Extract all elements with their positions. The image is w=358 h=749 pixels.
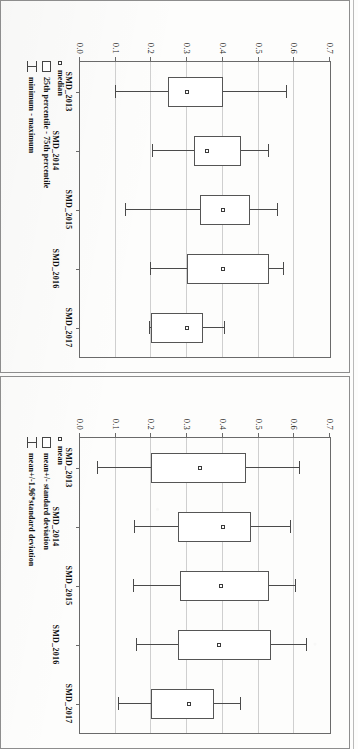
y-axis-tick [115, 57, 116, 62]
y-axis-tick [222, 57, 223, 62]
box-rect [151, 313, 203, 343]
y-axis-tick-label: 0.3 [182, 43, 192, 54]
y-axis-tick [258, 433, 259, 438]
box-rect [151, 689, 214, 719]
rotated-figure: 0.00.10.20.30.40.50.60.7SMD_2013SMD_2014… [0, 0, 350, 749]
whisker-cap-upper [268, 144, 269, 157]
whisker-cap-lower [115, 85, 116, 98]
box-rect [194, 136, 240, 166]
y-axis-tick [186, 433, 187, 438]
box-rect [178, 512, 251, 542]
y-axis-tick [79, 57, 80, 62]
legend-row: mean+/-1.96*standard deviation [27, 437, 37, 566]
center-marker [221, 208, 225, 212]
y-axis-tick [115, 433, 116, 438]
y-axis-tick-label: 0.6 [289, 419, 299, 430]
mean-marker-icon [59, 61, 63, 65]
box-rect [180, 571, 269, 601]
whisker-cap-upper [283, 262, 284, 275]
y-axis-tick-label: 0.4 [218, 43, 228, 54]
box-plot-item [80, 679, 330, 729]
whisker-cap-lower [149, 321, 150, 334]
legend-label: mean [56, 446, 65, 465]
center-marker [185, 326, 189, 330]
whisker-cap-lower [152, 144, 153, 157]
legend-label: mean+/-1.96*standard deviation [28, 453, 37, 566]
box-plot-item [80, 502, 330, 552]
page-edge-line [353, 0, 354, 749]
legend-row: mean+/- standard deviation [42, 437, 51, 550]
legend-label: median [56, 70, 65, 96]
center-marker [198, 466, 202, 470]
center-marker [187, 702, 191, 706]
box-plot-item [80, 561, 330, 611]
whisker-cap-lower [133, 579, 134, 592]
y-axis-tick-label: 0.4 [218, 419, 228, 430]
whisker-cap-lower [134, 520, 135, 533]
box-plot-item [80, 67, 330, 117]
scanned-page: 0.00.10.20.30.40.50.60.7SMD_2013SMD_2014… [0, 0, 358, 749]
y-axis-tick [150, 433, 151, 438]
legend-row: mean [56, 437, 65, 465]
y-axis-tick [79, 433, 80, 438]
y-axis-tick [186, 57, 187, 62]
y-axis-tick-label: 0.7 [325, 419, 335, 430]
y-axis-tick-label: 0.2 [146, 419, 156, 430]
y-axis-tick [329, 57, 330, 62]
legend-row: 25th percentile - 75th percentile [42, 61, 51, 188]
boxplot-panel-mean: 0.00.10.20.30.40.50.60.7SMD_2013SMD_2014… [0, 376, 350, 749]
box-marker-icon [42, 437, 51, 448]
y-axis-tick-label: 0.2 [146, 43, 156, 54]
whisker-marker-icon [27, 437, 37, 448]
whisker-cap-lower [97, 461, 98, 474]
whisker-cap-lower [125, 203, 126, 216]
center-marker [221, 267, 225, 271]
whisker-cap-lower [136, 638, 137, 651]
y-axis-tick-label: 0.1 [111, 43, 121, 54]
whisker-cap-upper [277, 203, 278, 216]
legend: meanmean+/- standard deviationmean+/-1.9… [7, 437, 69, 742]
whisker-cap-upper [286, 85, 287, 98]
center-marker [217, 643, 221, 647]
box-rect [187, 254, 269, 284]
box-rect [178, 630, 271, 660]
y-axis-tick-label: 0.0 [75, 43, 85, 54]
whisker-cap-upper [224, 321, 225, 334]
y-axis-tick [222, 433, 223, 438]
box-plot-item [80, 185, 330, 235]
whisker-cap-lower [118, 697, 119, 710]
legend-label: mean+/- standard deviation [42, 453, 51, 550]
y-axis-tick-label: 0.5 [254, 419, 264, 430]
center-marker [219, 584, 223, 588]
mean-marker-icon [59, 437, 63, 441]
legend-label: 25th percentile - 75th percentile [42, 77, 51, 188]
whisker-cap-upper [290, 520, 291, 533]
y-axis-tick [329, 433, 330, 438]
whisker-cap-upper [240, 697, 241, 710]
box-plot-item [80, 244, 330, 294]
legend: median25th percentile - 75th percentilem… [7, 61, 69, 366]
box-plot-item [80, 620, 330, 670]
box-plot-item [80, 443, 330, 493]
whisker-marker-icon [27, 61, 37, 72]
center-marker [205, 149, 209, 153]
boxplot-panel-median: 0.00.10.20.30.40.50.60.7SMD_2013SMD_2014… [0, 0, 350, 373]
y-axis-tick [258, 57, 259, 62]
y-axis-tick-label: 0.0 [75, 419, 85, 430]
whisker-cap-upper [306, 638, 307, 651]
whisker-cap-lower [150, 262, 151, 275]
y-axis-tick-label: 0.7 [325, 43, 335, 54]
legend-row: minimum - maximum [27, 61, 37, 153]
box-plot-item [80, 126, 330, 176]
whisker-cap-upper [299, 461, 300, 474]
plot-area: 0.00.10.20.30.40.50.60.7SMD_2013SMD_2014… [79, 61, 331, 358]
box-rect [168, 77, 223, 107]
plot-area: 0.00.10.20.30.40.50.60.7SMD_2013SMD_2014… [79, 437, 331, 734]
y-axis-tick [150, 57, 151, 62]
center-marker [185, 90, 189, 94]
center-marker [221, 525, 225, 529]
box-marker-icon [42, 61, 51, 72]
y-axis-tick [293, 57, 294, 62]
y-axis-tick-label: 0.5 [254, 43, 264, 54]
y-axis-tick [293, 433, 294, 438]
